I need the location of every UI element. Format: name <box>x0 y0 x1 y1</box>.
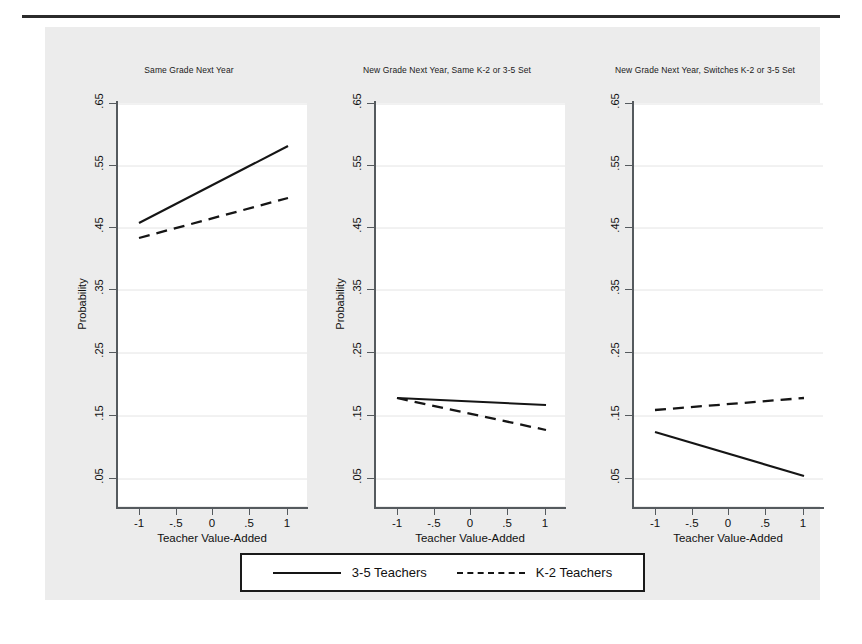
x-tick-label: -.5 <box>161 517 191 529</box>
legend-label: K-2 Teachers <box>536 565 612 580</box>
chart-legend: 3-5 Teachers K-2 Teachers <box>240 553 645 592</box>
plot-svg <box>117 103 307 506</box>
y-tick-label: .25 <box>92 342 104 357</box>
legend-label: 3-5 Teachers <box>352 565 427 580</box>
x-tick-label: 0 <box>455 517 485 529</box>
plot-area <box>375 103 565 506</box>
y-tick-label: .15 <box>92 405 104 420</box>
y-axis-title: Probability <box>334 278 346 329</box>
y-axis-line <box>632 101 634 508</box>
series-line-k-2-teachers <box>139 198 288 238</box>
solid-line-icon <box>273 572 341 574</box>
plot-svg <box>375 103 565 506</box>
y-tick-label: .55 <box>350 155 362 170</box>
y-tick-label: .05 <box>608 468 620 483</box>
series-line-3-5-teachers <box>139 146 288 223</box>
series-line-k-2-teachers <box>655 398 804 410</box>
x-tick-label: .5 <box>750 517 780 529</box>
series-lines <box>139 146 288 238</box>
x-tick-label: -1 <box>640 517 670 529</box>
y-axis-title: Probability <box>76 278 88 329</box>
x-axis-title: Teacher Value-Added <box>633 532 823 544</box>
y-axis-line <box>374 101 376 508</box>
y-tick-label: .45 <box>608 217 620 232</box>
plot-area <box>633 103 823 506</box>
y-tick-label: .35 <box>92 279 104 294</box>
panel-title: Same Grade Next Year <box>60 65 318 75</box>
series-line-3-5-teachers <box>655 432 804 476</box>
x-tick-label: -.5 <box>419 517 449 529</box>
x-tick-label: -.5 <box>677 517 707 529</box>
y-tick-label: .65 <box>350 93 362 108</box>
y-tick-label: .15 <box>350 405 362 420</box>
legend-item-3-5-teachers: 3-5 Teachers <box>273 565 427 580</box>
x-tick-label: 0 <box>197 517 227 529</box>
x-axis-title: Teacher Value-Added <box>117 532 307 544</box>
panel-new-grade-same-set: New Grade Next Year, Same K-2 or 3-5 Set <box>318 27 576 527</box>
x-tick-label: 1 <box>788 517 818 529</box>
panel-container: Same Grade Next Year <box>45 27 820 527</box>
dashed-line-icon <box>457 572 525 574</box>
gridlines <box>633 104 823 479</box>
gridlines <box>375 104 565 479</box>
plot-svg <box>633 103 823 506</box>
y-tick-label: .05 <box>350 468 362 483</box>
series-lines <box>397 398 546 430</box>
y-tick-label: .45 <box>350 217 362 232</box>
y-tick-label: .05 <box>92 468 104 483</box>
x-axis-title: Teacher Value-Added <box>375 532 565 544</box>
top-horizontal-rule <box>22 15 840 18</box>
gridlines <box>117 104 307 479</box>
panel-title: New Grade Next Year, Switches K-2 or 3-5… <box>576 65 834 75</box>
panel-new-grade-switches-set: New Grade Next Year, Switches K-2 or 3-5… <box>576 27 834 527</box>
figure-root: Same Grade Next Year <box>0 0 862 644</box>
series-line-k-2-teachers <box>397 398 546 430</box>
panel-same-grade-next-year: Same Grade Next Year <box>60 27 318 527</box>
x-tick-label: -1 <box>124 517 154 529</box>
x-tick-label: .5 <box>234 517 264 529</box>
series-lines <box>655 398 804 476</box>
y-tick-label: .25 <box>350 342 362 357</box>
x-tick-label: .5 <box>492 517 522 529</box>
y-tick-label: .45 <box>92 217 104 232</box>
x-tick-label: -1 <box>382 517 412 529</box>
y-tick-label: .25 <box>608 342 620 357</box>
x-tick-label: 0 <box>713 517 743 529</box>
y-tick-label: .55 <box>92 155 104 170</box>
x-tick-label: 1 <box>530 517 560 529</box>
y-tick-label: .65 <box>92 93 104 108</box>
y-tick-label: .35 <box>350 279 362 294</box>
y-tick-label: .15 <box>608 405 620 420</box>
y-axis-line <box>116 101 118 508</box>
panel-title: New Grade Next Year, Same K-2 or 3-5 Set <box>318 65 576 75</box>
legend-item-k-2-teachers: K-2 Teachers <box>457 565 612 580</box>
y-tick-label: .55 <box>608 155 620 170</box>
x-tick-label: 1 <box>272 517 302 529</box>
y-tick-label: .65 <box>608 93 620 108</box>
y-tick-label: .35 <box>608 279 620 294</box>
plot-area <box>117 103 307 506</box>
